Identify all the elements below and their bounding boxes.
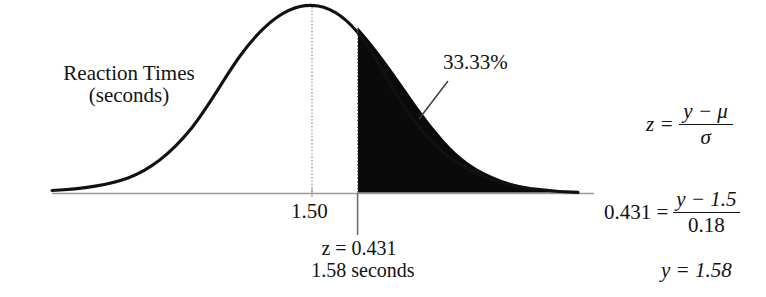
z-score-label: z = 0.431 [303, 238, 415, 259]
normal-distribution-figure: Reaction Times (seconds) 33.33% 1.50 z =… [0, 0, 766, 297]
formula-z-numerator: y − μ [680, 100, 731, 124]
percent-leader-line [419, 81, 448, 119]
formula-z-lhs: z = [646, 112, 679, 137]
formula-sub-fraction: y − 1.5 0.18 [673, 188, 739, 236]
formula-solution-text: y = 1.58 [661, 258, 732, 283]
cutoff-seconds-label: 1.58 seconds [292, 260, 434, 281]
formula-z-substituted: 0.431 = y − 1.5 0.18 [604, 188, 740, 236]
shaded-area-percent-label: 33.33% [443, 51, 508, 73]
axis-title-line1: Reaction Times [63, 61, 194, 85]
formula-sub-lhs: 0.431 = [604, 200, 673, 225]
formula-z-definition: z = y − μ σ [646, 100, 733, 148]
axis-title-line2: (seconds) [36, 84, 222, 106]
formula-sub-numerator: y − 1.5 [673, 188, 739, 212]
formula-z-denominator: σ [697, 125, 713, 149]
formula-z-fraction: y − μ σ [679, 100, 733, 148]
formula-solution: y = 1.58 [661, 258, 732, 283]
mean-tick-label: 1.50 [291, 200, 328, 222]
axis-title: Reaction Times (seconds) [36, 62, 222, 106]
formula-sub-denominator: 0.18 [685, 213, 728, 237]
